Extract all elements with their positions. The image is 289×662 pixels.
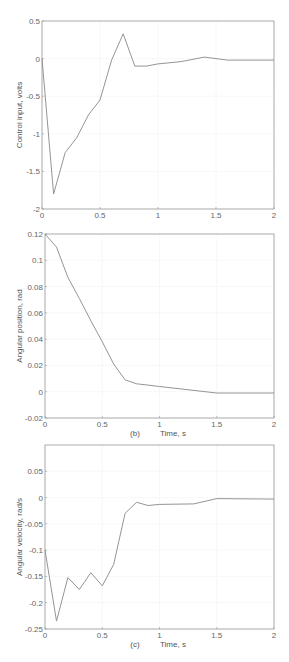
grid: [42, 21, 274, 209]
x-axis-label: Time, s: [160, 429, 186, 438]
y-tick-label: 0: [39, 494, 44, 503]
x-tick-label: 0: [40, 211, 45, 220]
chart-a-plot: 00.511.52-2-1.5-1-0.500.5(a)Time, sContr…: [0, 0, 289, 220]
x-tick-label: 1: [156, 211, 161, 220]
y-tick-label: 0: [39, 388, 44, 397]
y-tick-label: -1: [33, 130, 41, 139]
y-tick-label: 0.02: [27, 361, 43, 370]
y-tick-label: -0.05: [25, 520, 44, 529]
y-tick-label: -0.5: [26, 92, 40, 101]
x-tick-label: 1.5: [211, 631, 223, 640]
y-tick-label: 0.06: [27, 309, 43, 318]
x-tick-label: 0.5: [94, 211, 106, 220]
y-tick-label: 0.04: [27, 335, 43, 344]
y-tick-label: 0: [36, 55, 41, 64]
x-tick-label: 0.5: [97, 631, 109, 640]
x-tick-label: 0: [43, 420, 48, 429]
grid: [45, 234, 274, 418]
y-axis-label: Angular velocity, rad/s: [15, 498, 24, 576]
y-tick-label: 0.5: [29, 17, 41, 26]
grid: [45, 445, 274, 629]
x-tick-label: 2: [272, 211, 277, 220]
data-series-line: [45, 234, 274, 393]
chart-b-plot: 00.511.52-0.0200.020.040.060.080.10.12(b…: [0, 220, 289, 440]
x-tick-label: 0: [43, 631, 48, 640]
y-axis-label: Control input, volts: [15, 82, 24, 148]
x-tick-label: 1.5: [211, 420, 223, 429]
y-tick-label: 0.12: [27, 230, 43, 239]
y-tick-label: -0.1: [29, 546, 43, 555]
x-tick-label: 1: [157, 631, 162, 640]
y-tick-label: -1.5: [26, 167, 40, 176]
x-axis-label: Time, s: [160, 640, 186, 649]
x-tick-label: 0.5: [97, 420, 109, 429]
x-tick-label: 1: [157, 420, 162, 429]
y-tick-label: -0.15: [25, 572, 44, 581]
y-tick-label: 0.1: [32, 256, 44, 265]
y-tick-label: 0.05: [27, 467, 43, 476]
chart-c: 00.511.52-0.25-0.2-0.15-0.1-0.0500.05(c)…: [0, 440, 289, 662]
chart-c-plot: 00.511.52-0.25-0.2-0.15-0.1-0.0500.05(c)…: [0, 440, 289, 662]
y-tick-label: -2: [33, 205, 41, 214]
chart-b: 00.511.52-0.0200.020.040.060.080.10.12(b…: [0, 220, 289, 440]
panel-label: (b): [130, 429, 140, 438]
y-tick-label: -0.2: [29, 599, 43, 608]
x-tick-label: 2: [272, 420, 277, 429]
y-axis-label: Angular position, rad: [15, 289, 24, 362]
x-tick-label: 1.5: [210, 211, 222, 220]
x-tick-label: 2: [272, 631, 277, 640]
panel-label: (c): [130, 640, 140, 649]
y-tick-label: 0.08: [27, 283, 43, 292]
chart-a: 00.511.52-2-1.5-1-0.500.5(a)Time, sContr…: [0, 0, 289, 220]
y-tick-label: -0.02: [25, 414, 44, 423]
y-tick-label: -0.25: [25, 625, 44, 634]
